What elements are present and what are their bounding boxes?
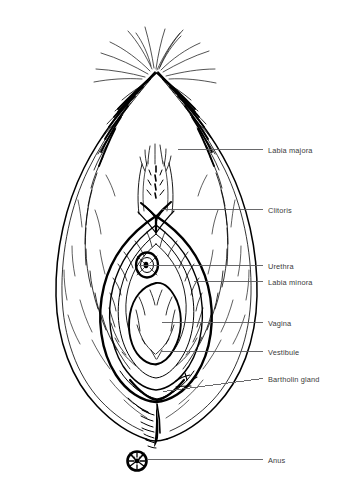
label-labia-majora: Labia majora <box>268 146 313 155</box>
vulva-line-drawing <box>0 0 347 484</box>
label-anus: Anus <box>268 456 285 465</box>
label-vestibule: Vestibule <box>268 348 299 357</box>
label-vagina: Vagina <box>268 319 291 328</box>
label-urethra: Urethra <box>268 262 294 271</box>
vaginal-opening <box>129 283 181 364</box>
anus-opening <box>128 452 147 471</box>
label-labia-minora: Labia minora <box>268 278 313 287</box>
anatomy-diagram: Labia majoraClitorisUrethraLabia minoraV… <box>0 0 347 484</box>
label-bartholin-gland: Bartholin gland <box>268 375 320 384</box>
label-clitoris: Clitoris <box>268 206 292 215</box>
urethral-opening <box>136 253 158 278</box>
leader-line-bartholin-gland <box>163 379 263 392</box>
mons-hair-feathering <box>99 73 214 166</box>
